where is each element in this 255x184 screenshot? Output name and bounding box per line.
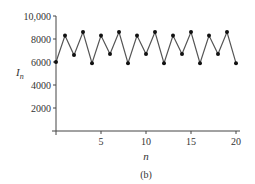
data-point [81, 30, 85, 34]
y-tick-label: 10,000 [24, 11, 52, 22]
data-point [72, 53, 76, 57]
data-point [225, 30, 229, 34]
data-point [126, 61, 130, 65]
data-point [162, 61, 166, 65]
data-series [54, 30, 238, 65]
y-tick-label: 2000 [31, 103, 51, 114]
x-axis-label: n [143, 150, 149, 162]
data-point [198, 61, 202, 65]
data-point [117, 30, 121, 34]
chart: 200040006000800010,0005101520 In n (b) [0, 0, 255, 184]
data-point [171, 34, 175, 38]
data-point [99, 34, 103, 38]
data-point [234, 61, 238, 65]
data-point [144, 52, 148, 56]
data-point [54, 60, 58, 64]
x-tick-label: 20 [231, 136, 241, 147]
data-point [189, 30, 193, 34]
y-tick-label: 8000 [31, 34, 51, 45]
data-point [135, 34, 139, 38]
data-point [90, 61, 94, 65]
data-point [180, 52, 184, 56]
data-point [216, 52, 220, 56]
y-axis-label: In [15, 66, 24, 81]
axes: 200040006000800010,0005101520 [24, 11, 242, 148]
y-tick-label: 6000 [31, 57, 51, 68]
x-tick-label: 5 [99, 136, 104, 147]
figure-caption: (b) [140, 169, 152, 181]
x-tick-label: 15 [186, 136, 196, 147]
data-point [63, 34, 67, 38]
x-tick-label: 10 [141, 136, 151, 147]
data-point [153, 30, 157, 34]
y-tick-label: 4000 [31, 80, 51, 91]
data-point [207, 34, 211, 38]
data-point [108, 52, 112, 56]
